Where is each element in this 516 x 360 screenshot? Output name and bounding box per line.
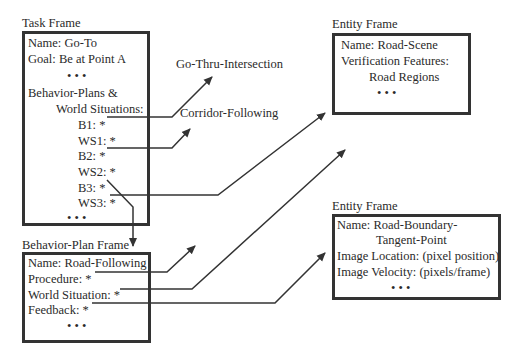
slot-b3: B3: * xyxy=(78,180,105,196)
entity-frame-2-title: Entity Frame xyxy=(332,199,398,213)
go-thru-intersection-label: Go-Thru-Intersection xyxy=(176,57,283,71)
slot-b1: B1: * xyxy=(78,117,105,133)
ellipsis-dots: • • • xyxy=(391,280,410,296)
slot-ws3: WS3: * xyxy=(78,195,116,211)
bp-feedback: Feedback: * xyxy=(28,302,89,318)
behavior-plans-header: Behavior-Plans & xyxy=(28,85,118,101)
corridor-following-label: Corridor-Following xyxy=(180,106,278,120)
entity-name: Name: Road-Scene xyxy=(341,37,438,53)
bp-name: Name: Road-Following xyxy=(28,255,146,271)
image-location: Image Location: (pixel position) xyxy=(337,248,499,264)
road-regions: Road Regions xyxy=(369,69,439,85)
slot-ws1: WS1: * xyxy=(78,133,116,149)
entity-name-line1: Name: Road-Boundary- xyxy=(337,217,457,233)
ellipsis-dots: • • • xyxy=(67,210,86,226)
entity-frame-road-scene: Name: Road-Scene Verification Features: … xyxy=(332,33,471,115)
bp-world-situation: World Situation: * xyxy=(28,287,120,303)
ellipsis-dots: • • • xyxy=(377,85,396,101)
verification-features: Verification Features: xyxy=(341,53,449,69)
bp-procedure: Procedure: * xyxy=(28,271,92,287)
image-velocity: Image Velocity: (pixels/frame) xyxy=(337,264,490,280)
task-frame: Name: Go-To Goal: Be at Point A • • • Be… xyxy=(22,31,150,226)
slot-ws2: WS2: * xyxy=(78,164,116,180)
behavior-plan-frame: Name: Road-Following Procedure: * World … xyxy=(22,252,151,343)
entity-name-line2: Tangent-Point xyxy=(376,232,447,248)
ellipsis-dots: • • • xyxy=(67,318,86,334)
slot-b2: B2: * xyxy=(78,148,105,164)
entity-frame-road-boundary: Name: Road-Boundary- Tangent-Point Image… xyxy=(332,214,501,300)
task-frame-title: Task Frame xyxy=(22,16,80,30)
entity-frame-1-title: Entity Frame xyxy=(332,17,398,31)
behavior-plan-frame-title: Behavior-Plan Frame xyxy=(22,238,129,252)
ellipsis-dots: • • • xyxy=(67,68,86,84)
task-goal: Goal: Be at Point A xyxy=(28,51,126,67)
task-name: Name: Go-To xyxy=(28,35,97,51)
world-situations-header: World Situations: xyxy=(56,101,144,117)
